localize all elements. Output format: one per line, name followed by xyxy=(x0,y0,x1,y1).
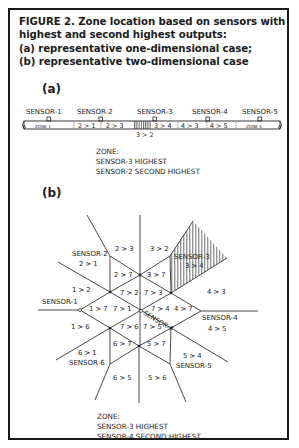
region-6-7: 6 > 7 xyxy=(113,340,132,348)
region-7-3: 7 > 3 xyxy=(144,289,163,297)
region-2-7: 2 > 7 xyxy=(114,271,133,279)
region-5-6: 5 > 6 xyxy=(148,374,167,382)
region-7-1: 7 > 1 xyxy=(113,305,132,313)
region-7-4: 7 > 4 xyxy=(151,305,170,313)
b-sensor-2-label: SENSOR-2 xyxy=(72,250,108,258)
region-6-1: 6 > 1 xyxy=(78,349,97,357)
sensor-1-node-icon xyxy=(79,309,82,312)
region-1-6: 1 > 6 xyxy=(71,323,90,331)
panel-b-zone-note: ZONE: SENSOR-3 HIGHEST SENSOR-4 SECOND H… xyxy=(97,412,201,442)
region-1-7: 1 > 7 xyxy=(89,305,108,313)
region-7-2: 7 > 2 xyxy=(120,289,139,297)
b-sensor-4-label: SENSOR-4 xyxy=(202,314,238,322)
region-3-2: 3 > 2 xyxy=(150,245,169,253)
region-4-5: 4 > 5 xyxy=(208,325,227,333)
b-sensor-6-label: SENSOR-6 xyxy=(69,359,105,367)
region-3-4: 3 > 4 xyxy=(185,262,204,270)
region-7-6: 7 > 6 xyxy=(120,323,139,331)
sensor-7-node-icon xyxy=(140,310,143,313)
region-4-7: 4 > 7 xyxy=(174,305,193,313)
b-sensor-1-label: SENSOR-1 xyxy=(42,298,78,306)
panel-b-diagram: SENSOR-2 SENSOR-3 SENSOR-1 SENSOR-4 SENS… xyxy=(0,0,299,448)
region-2-3: 2 > 3 xyxy=(115,245,134,253)
region-3-7: 3 > 7 xyxy=(147,271,166,279)
zone-note-title: ZONE: xyxy=(97,412,201,422)
region-7-5: 7 > 5 xyxy=(143,323,162,331)
region-5-7: 5 > 7 xyxy=(147,340,166,348)
zone-note-second: SENSOR-4 SECOND HIGHEST xyxy=(97,432,201,442)
b-sensor-3-label: SENSOR-3 xyxy=(174,253,210,261)
zone-note-highest: SENSOR-3 HIGHEST xyxy=(97,422,201,432)
region-6-5: 6 > 5 xyxy=(113,374,132,382)
region-4-3: 4 > 3 xyxy=(207,288,226,296)
region-5-4: 5 > 4 xyxy=(183,352,202,360)
b-sensor-5-label: SENSOR-5 xyxy=(176,362,212,370)
region-2-1: 2 > 1 xyxy=(79,260,98,268)
region-1-2: 1 > 2 xyxy=(72,286,91,294)
